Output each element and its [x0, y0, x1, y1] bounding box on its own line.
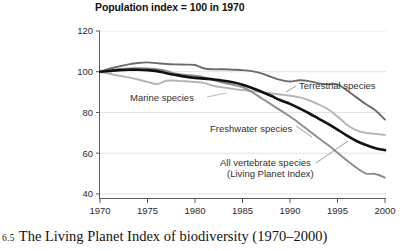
y-tick-label: 100: [77, 66, 93, 77]
y-tick-label: 80: [82, 107, 93, 118]
marine-species-label: Marine species: [130, 92, 194, 103]
x-tick-label: 2000: [374, 205, 395, 216]
x-tick-label: 1990: [279, 205, 300, 216]
y-axis-ticks: 406080100120: [77, 25, 100, 199]
x-tick-label: 1975: [137, 205, 158, 216]
x-axis-ticks: 1970197519801985199019952000: [89, 199, 395, 216]
freshwater-species-label: Freshwater species: [210, 123, 293, 134]
figure-container: Population index = 100 in 1970 406080100…: [0, 0, 405, 251]
y-tick-label: 40: [82, 188, 93, 199]
figure-number: 6.5: [2, 233, 15, 243]
lpi-label-line-1: All vertebrate species: [220, 157, 311, 168]
x-tick-label: 1995: [327, 205, 348, 216]
y-tick-label: 120: [77, 25, 93, 36]
line-chart: 406080100120 197019751980198519901995200…: [0, 0, 405, 225]
x-tick-label: 1985: [232, 205, 253, 216]
x-tick-label: 1970: [89, 205, 110, 216]
figure-caption: 6.5The Living Planet Index of biodiversi…: [2, 228, 402, 245]
x-tick-label: 1980: [184, 205, 205, 216]
lpi-label-line-2: (Living Planet Index): [227, 168, 314, 179]
figure-caption-text: The Living Planet Index of biodiversity …: [19, 228, 327, 244]
terrestrial-species-label: Terrestrial species: [299, 80, 376, 91]
y-tick-label: 60: [82, 148, 93, 159]
